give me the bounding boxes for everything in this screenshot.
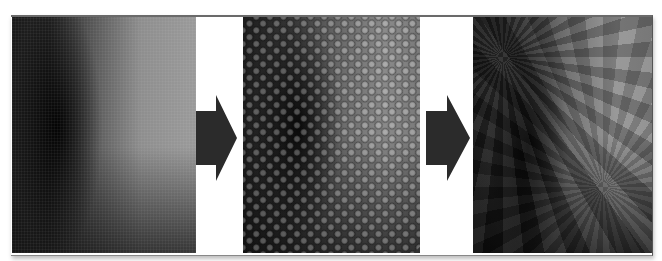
right-arrow-icon bbox=[426, 95, 472, 181]
texture-panel-dot-grid bbox=[243, 17, 420, 253]
texture-panel-starburst bbox=[473, 17, 652, 253]
right-arrow-icon bbox=[196, 95, 240, 181]
texture-panel-smooth bbox=[12, 17, 196, 253]
